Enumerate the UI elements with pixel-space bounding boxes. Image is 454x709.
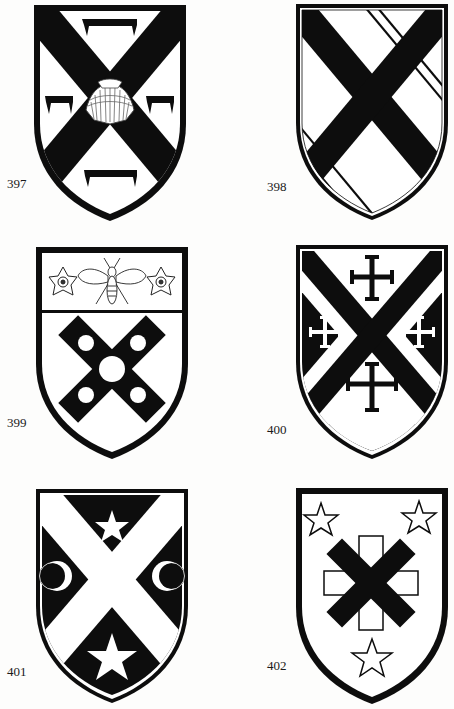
shield-402-icon [295, 487, 449, 705]
shield-397-icon [33, 4, 187, 222]
shield-number: 399 [7, 416, 27, 429]
shield-number: 398 [267, 180, 287, 193]
shield-398-icon [295, 3, 449, 221]
shield-number: 400 [267, 423, 287, 436]
shield-number: 401 [7, 665, 27, 678]
shield-401-icon [35, 488, 189, 704]
shield-number: 402 [267, 659, 287, 672]
shield-400-icon [295, 244, 449, 460]
plate-402: 402 [227, 472, 454, 709]
plate-397: 397 [0, 0, 227, 236]
chief-line [42, 310, 182, 313]
shield-399-icon [35, 246, 189, 460]
crescent-icon [39, 561, 72, 591]
plate-399: 399 [0, 236, 227, 472]
plate-401: 401 [0, 472, 227, 709]
plate-398: 398 [227, 0, 454, 236]
crescent-icon [152, 561, 185, 591]
shield-number: 397 [7, 177, 27, 190]
plate-400: 400 [227, 236, 454, 472]
